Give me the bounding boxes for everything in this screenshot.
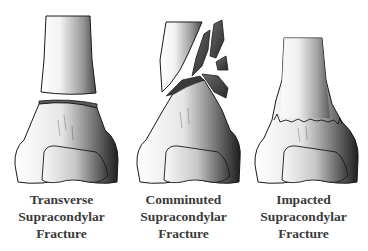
caption-line: Fracture — [122, 225, 245, 242]
caption-line: Comminuted — [122, 191, 245, 208]
caption-line: Supracondylar — [0, 208, 123, 225]
caption-line: Transverse — [0, 191, 123, 208]
impacted-fracture-illustration — [242, 0, 365, 190]
caption-line: Impacted — [242, 191, 365, 208]
transverse-fracture-illustration — [0, 0, 123, 190]
caption-comminuted: Comminuted Supracondylar Fracture — [122, 191, 245, 242]
caption-impacted: Impacted Supracondylar Fracture — [242, 191, 365, 242]
caption-line: Supracondylar — [242, 208, 365, 225]
panel-impacted: Impacted Supracondylar Fracture — [242, 0, 365, 251]
caption-line: Fracture — [242, 225, 365, 242]
caption-transverse: Transverse Supracondylar Fracture — [0, 191, 123, 242]
caption-line: Supracondylar — [122, 208, 245, 225]
comminuted-fracture-illustration — [122, 0, 245, 190]
panel-transverse: Transverse Supracondylar Fracture — [0, 0, 123, 251]
panel-comminuted: Comminuted Supracondylar Fracture — [122, 0, 245, 251]
caption-line: Fracture — [0, 225, 123, 242]
